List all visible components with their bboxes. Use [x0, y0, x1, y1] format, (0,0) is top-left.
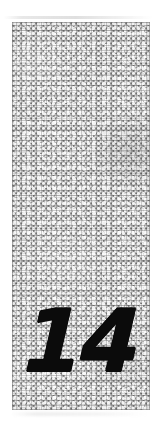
- scan-smudge-bottom: [10, 412, 148, 416]
- chapter-number: 14: [12, 298, 150, 384]
- scanned-page: 14: [0, 0, 157, 426]
- scan-smudge-top: [4, 16, 152, 19]
- chapter-number-plate: 14: [12, 22, 150, 410]
